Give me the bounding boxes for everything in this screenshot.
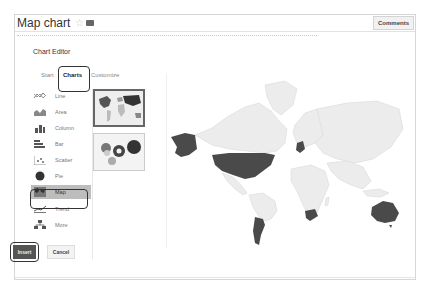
- document-window: Map chart ☆ Comments Chart Editor Start …: [14, 14, 416, 280]
- column-chart-icon: [34, 123, 46, 133]
- bar-chart-icon: [34, 139, 46, 149]
- chart-type-label: Area: [55, 109, 67, 115]
- pie-chart-icon: [34, 171, 46, 181]
- chart-type-label: Line: [55, 93, 65, 99]
- thumbnail-geo-region-map[interactable]: [93, 89, 145, 127]
- geo-chart-preview[interactable]: [166, 73, 408, 248]
- chart-type-label: Pie: [55, 173, 63, 179]
- document-title[interactable]: Map chart: [17, 16, 70, 30]
- page: Map chart ☆ Comments Chart Editor Start …: [0, 0, 429, 285]
- star-icon[interactable]: ☆: [75, 17, 84, 28]
- chart-type-area[interactable]: Area: [31, 105, 91, 119]
- chart-type-line[interactable]: Line: [31, 89, 91, 103]
- title-bar: Map chart ☆ Comments: [15, 15, 415, 32]
- line-chart-icon: [34, 91, 46, 101]
- area-chart-icon: [34, 107, 46, 117]
- map-type-highlight: [30, 189, 88, 209]
- top-strip: [0, 0, 429, 12]
- chart-type-label: Column: [55, 125, 74, 131]
- tab-customize[interactable]: Customize: [91, 68, 119, 82]
- chart-type-more[interactable]: More: [31, 218, 91, 232]
- more-charts-icon: [34, 220, 46, 230]
- chart-type-label: Bar: [55, 141, 64, 147]
- chart-type-column[interactable]: Column: [31, 121, 91, 135]
- chart-type-scatter[interactable]: Scatter: [31, 153, 91, 167]
- world-map: [167, 73, 409, 248]
- toolbar-divider: [17, 35, 317, 36]
- scatter-chart-icon: [34, 155, 46, 165]
- folder-icon[interactable]: [86, 20, 94, 26]
- tab-start[interactable]: Start: [41, 68, 54, 82]
- chart-type-label: Scatter: [55, 157, 72, 163]
- comments-button[interactable]: Comments: [373, 16, 414, 30]
- chart-type-pie[interactable]: Pie: [31, 169, 91, 183]
- footer-divider: [15, 277, 415, 278]
- chart-type-bar[interactable]: Bar: [31, 137, 91, 151]
- chart-thumbnails: [93, 89, 168, 259]
- chart-editor-title: Chart Editor: [33, 48, 70, 55]
- thumbnail-geo-marker-map[interactable]: [93, 133, 145, 171]
- chart-type-list: Line Area Column Bar: [31, 89, 93, 259]
- chart-type-label: More: [55, 222, 68, 228]
- insert-button[interactable]: Insert: [13, 245, 36, 259]
- cancel-button[interactable]: Cancel: [47, 245, 75, 259]
